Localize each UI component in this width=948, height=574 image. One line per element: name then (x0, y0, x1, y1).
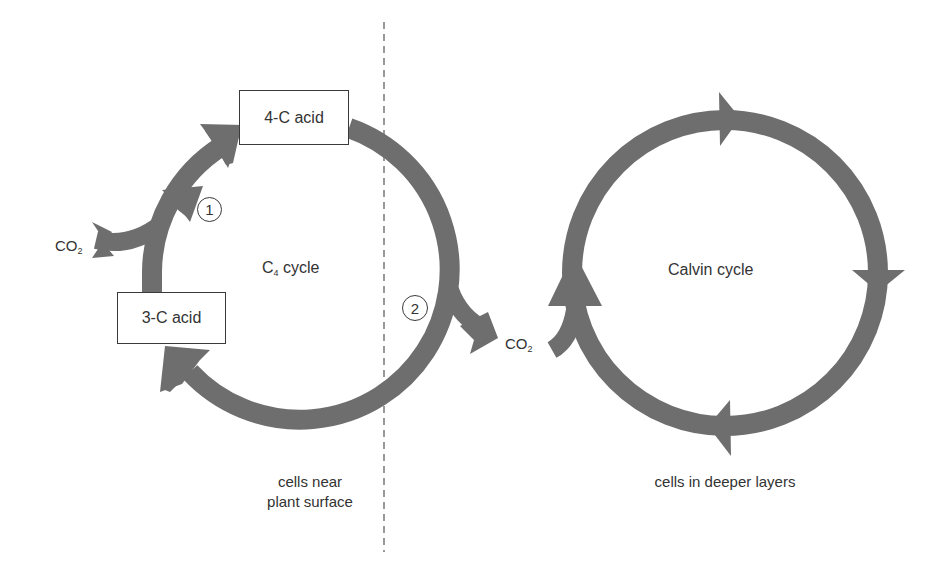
four-c-acid-box: 4-C acid (239, 90, 349, 145)
three-c-acid-box: 3-C acid (117, 292, 226, 344)
co2-output-arrow (450, 290, 498, 354)
calvin-cycle-title: Calvin cycle (668, 262, 753, 278)
calvin-arrowhead-right-icon (852, 270, 905, 292)
c4-cycle-title: C4 cycle (262, 260, 319, 276)
four-c-acid-label: 4-C acid (264, 109, 324, 127)
co2-transfer-label: CO2 (505, 336, 533, 351)
three-c-acid-label: 3-C acid (142, 309, 202, 327)
co2-input-label: CO2 (55, 238, 83, 253)
co2-into-calvin-arrow (552, 310, 575, 350)
step-1-marker: 1 (197, 197, 222, 222)
step-2-marker: 2 (402, 295, 428, 321)
right-region-caption: cells in deeper layers (620, 472, 830, 492)
calvin-arrowhead-left-icon (548, 252, 602, 306)
left-region-caption: cells near plant surface (240, 472, 380, 512)
calvin-arrowhead-bottom-icon (708, 400, 731, 456)
calvin-arrowhead-top-icon (719, 92, 740, 146)
